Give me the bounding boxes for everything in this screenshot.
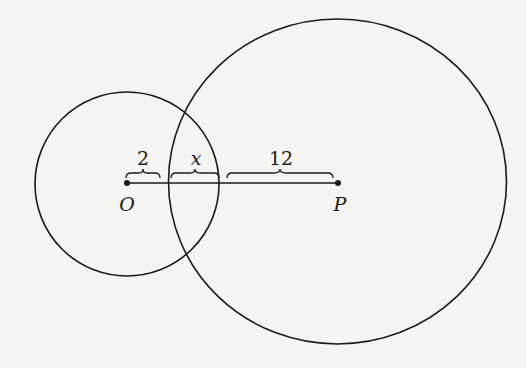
- point-P-label: P: [333, 193, 348, 215]
- point-P-dot: [335, 180, 341, 186]
- segment-label-2: 2: [137, 147, 149, 169]
- segment-label-12: 12: [269, 147, 293, 169]
- brace-x: [171, 169, 219, 178]
- brace-2: [126, 169, 160, 178]
- segment-label-x: x: [191, 147, 202, 169]
- point-O-dot: [124, 180, 130, 186]
- two-intersecting-circles-diagram: 2 x 12 O P: [0, 0, 526, 368]
- point-O-label: O: [119, 193, 135, 215]
- brace-12: [227, 169, 333, 178]
